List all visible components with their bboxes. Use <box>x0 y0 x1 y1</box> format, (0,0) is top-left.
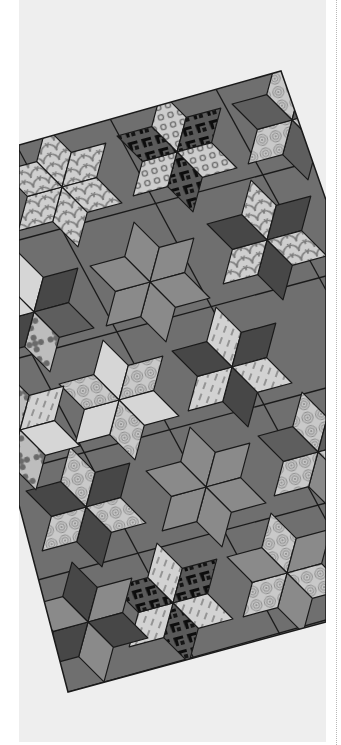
quilt-illustration <box>19 0 326 742</box>
quilt-photo <box>19 0 326 742</box>
page-margin-rule <box>336 0 337 745</box>
diamond-patch <box>292 76 326 120</box>
